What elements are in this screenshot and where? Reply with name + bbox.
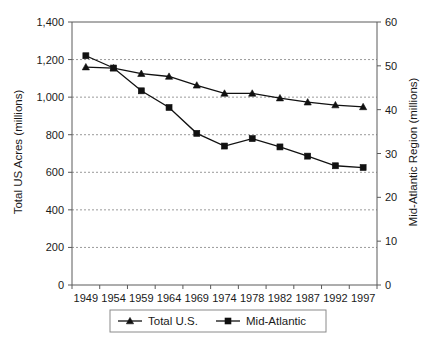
left-tick-label: 600 [46,166,64,178]
data-point-marker [277,144,283,150]
right-axis-ticks: 0102030405060 [377,16,397,291]
left-tick-label: 1,400 [36,16,64,28]
data-point-marker [138,88,144,94]
legend-label[interactable]: Total U.S. [148,315,198,327]
data-point-marker [305,153,311,159]
x-axis-ticks: 1949195419591964196919741978198219871992… [72,285,377,304]
left-axis-ticks: 02004006008001,0001,2001,400 [36,16,72,291]
data-point-marker [332,163,338,169]
x-tick-label: 1974 [212,292,236,304]
data-point-marker [249,136,255,142]
chart-legend: Total U.S.Mid-Atlantic [110,310,326,332]
data-point-marker [194,130,200,136]
right-tick-label: 30 [385,148,397,160]
x-tick-label: 1969 [185,292,209,304]
x-tick-label: 1959 [129,292,153,304]
right-tick-label: 10 [385,235,397,247]
x-tick-label: 1982 [268,292,292,304]
series-total-us [82,63,366,109]
line-chart: 02004006008001,0001,2001,400 01020304050… [0,0,436,347]
x-tick-label: 1964 [157,292,181,304]
right-tick-label: 60 [385,16,397,28]
series-line [86,67,363,107]
data-point-marker [111,65,117,71]
x-tick-label: 1954 [101,292,125,304]
chart-container: 02004006008001,0001,2001,400 01020304050… [0,0,436,347]
left-tick-label: 1,200 [36,54,64,66]
right-tick-label: 50 [385,60,397,72]
left-tick-label: 800 [46,129,64,141]
legend-label[interactable]: Mid-Atlantic [246,315,306,327]
plot-axes [72,22,377,285]
left-tick-label: 0 [58,279,64,291]
left-tick-label: 1,000 [36,91,64,103]
x-tick-label: 1987 [295,292,319,304]
data-point-marker [222,143,228,149]
right-tick-label: 0 [385,279,391,291]
y2-axis-title: Mid-Atlantic Region (millions) [407,77,419,226]
gridlines [72,60,377,248]
x-tick-label: 1992 [323,292,347,304]
x-tick-label: 1978 [240,292,264,304]
series-line [86,56,363,168]
left-tick-label: 400 [46,204,64,216]
x-tick-label: 1949 [74,292,98,304]
right-tick-label: 40 [385,104,397,116]
right-tick-label: 20 [385,191,397,203]
legend-marker [225,318,231,324]
data-point-marker [166,104,172,110]
y-axis-title: Total US Acres (millions) [12,90,24,215]
data-point-marker [83,53,89,59]
data-point-marker [360,165,366,171]
left-tick-label: 200 [46,241,64,253]
x-tick-label: 1997 [351,292,375,304]
